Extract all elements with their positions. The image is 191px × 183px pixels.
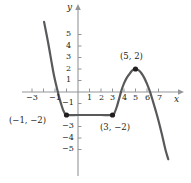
y-tick-label: 1 bbox=[66, 76, 71, 84]
y-tick-label: −1 bbox=[62, 99, 74, 107]
y-axis-arrow-icon bbox=[75, 4, 81, 10]
x-tick-label: 3 bbox=[110, 94, 115, 102]
y-tick-label: −3 bbox=[62, 122, 74, 130]
x-tick-label: 6 bbox=[145, 94, 150, 102]
data-point-marker bbox=[133, 66, 138, 71]
y-axis-label: y bbox=[67, 3, 72, 12]
graph-figure: y x −3−1123456754321−1−3−4−5(5, 2)(−1, −… bbox=[0, 0, 191, 183]
x-tick-label: 7 bbox=[157, 94, 162, 102]
point-annotation-label: (3, −2) bbox=[100, 123, 130, 132]
x-tick-label: −3 bbox=[26, 94, 38, 102]
x-tick-label: 4 bbox=[122, 94, 127, 102]
y-tick-label: 2 bbox=[66, 65, 71, 73]
x-tick-label: −1 bbox=[49, 94, 61, 102]
plot-canvas bbox=[0, 0, 191, 183]
point-annotation-label: (5, 2) bbox=[120, 52, 143, 61]
y-tick-label: 4 bbox=[66, 42, 71, 50]
data-point-marker bbox=[110, 112, 115, 117]
y-tick-label: 3 bbox=[66, 53, 71, 61]
x-tick-label: 5 bbox=[133, 94, 138, 102]
x-axis-label: x bbox=[174, 95, 179, 104]
x-tick-label: 2 bbox=[99, 94, 104, 102]
data-point-marker bbox=[64, 112, 69, 117]
y-tick-label: 5 bbox=[66, 30, 71, 38]
y-tick-label: −5 bbox=[62, 145, 74, 153]
x-tick-label: 1 bbox=[87, 94, 92, 102]
point-annotation-label: (−1, −2) bbox=[9, 116, 46, 125]
y-tick-label: −4 bbox=[62, 134, 74, 142]
